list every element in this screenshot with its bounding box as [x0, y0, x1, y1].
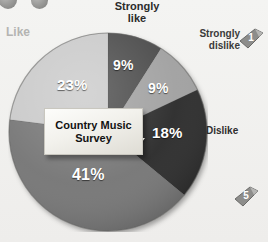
category-label-strongly-dislike: Strongly dislike [178, 28, 240, 52]
chart-title-callout: Country Music Survey [44, 108, 143, 155]
slice-value-strongly-like: 9% [113, 57, 134, 73]
slice-value-like: 23% [57, 76, 88, 93]
chart-canvas: 9% 9% 18% 41% 23% Country Music Survey S… [0, 0, 268, 242]
slice-value-strongly-dislike: 9% [148, 80, 169, 96]
category-label-like: Like [6, 26, 54, 38]
badge-5-text: 5 [243, 190, 249, 201]
category-label-dislike: Dislike [206, 125, 264, 137]
category-label-strongly-like: Strongly like [96, 0, 178, 24]
circle-dot-icon [31, 0, 48, 9]
slice-value-neither: 41% [72, 166, 105, 184]
chart-title-line-1: Country Music [55, 119, 131, 132]
badge-1-text: 1 [248, 32, 254, 43]
ribbon-badge-5-icon: 5 [233, 186, 259, 208]
callout-box: Country Music Survey [44, 108, 143, 155]
chart-title-line-2: Survey [75, 132, 112, 145]
circle-dot-icon [0, 0, 17, 9]
slice-value-dislike: 18% [152, 124, 183, 141]
ribbon-badge-1-icon: 1 [238, 28, 264, 50]
